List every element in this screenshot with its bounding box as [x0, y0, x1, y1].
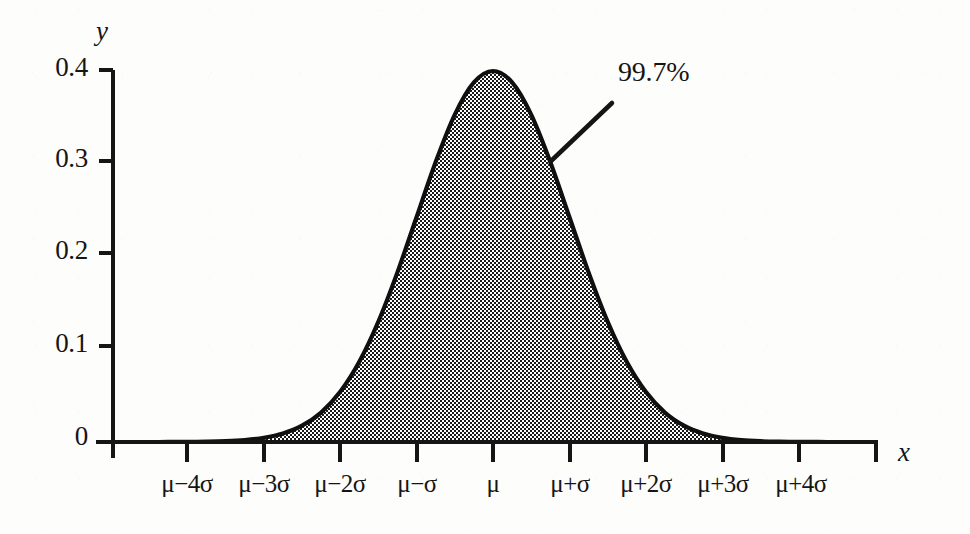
y-axis-label: y	[96, 16, 108, 47]
normal-distribution-figure: y x 0.4 0.3 0.2 0.1 0 μ−4σ μ−3σ μ−2σ μ−σ…	[0, 0, 970, 534]
x-axis-ticks	[187, 442, 876, 462]
shaded-area-under-curve	[264, 71, 722, 442]
annotation-label-997: 99.7%	[618, 56, 689, 88]
x-tick-label-8: μ+4σ	[731, 470, 871, 498]
y-tick-label-3: 0.1	[8, 328, 88, 359]
distribution-plot	[0, 0, 970, 534]
y-tick-label-4: 0	[8, 421, 88, 452]
x-axis-label: x	[898, 437, 910, 468]
y-tick-label-2: 0.2	[8, 235, 88, 266]
y-tick-label-0: 0.4	[8, 52, 88, 83]
y-axis-ticks	[99, 70, 113, 346]
y-tick-label-1: 0.3	[8, 143, 88, 174]
annotation-leader-line	[551, 103, 612, 161]
